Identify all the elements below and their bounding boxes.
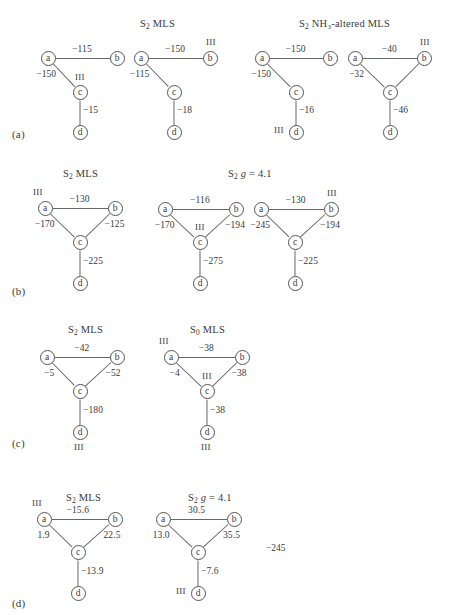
edge-cd bbox=[78, 560, 79, 586]
oxidation-mark-a: III bbox=[33, 187, 43, 197]
coupling-ab: −115 bbox=[72, 44, 92, 54]
node-a: a bbox=[255, 51, 270, 66]
edge-cd bbox=[296, 100, 297, 125]
node-b: b bbox=[235, 350, 250, 365]
node-a: a bbox=[40, 350, 55, 365]
coupling-bc: −52 bbox=[106, 368, 121, 378]
node-d: d bbox=[383, 125, 398, 140]
node-a: a bbox=[37, 512, 52, 527]
node-a: a bbox=[158, 202, 173, 217]
coupling-cd: −16 bbox=[299, 105, 314, 115]
node-c: c bbox=[383, 85, 398, 100]
coupling-ab: 30.5 bbox=[188, 505, 205, 515]
node-d: d bbox=[71, 586, 86, 601]
coupling-bc: −194 bbox=[225, 220, 245, 230]
edge-bc bbox=[395, 63, 419, 87]
node-b: b bbox=[110, 51, 125, 66]
node-d: d bbox=[193, 276, 208, 291]
node-d: d bbox=[167, 125, 182, 140]
coupling-bc: −38 bbox=[232, 368, 247, 378]
group-title: S2 g = 4.1 bbox=[188, 492, 232, 505]
node-d: d bbox=[73, 425, 88, 440]
edge-cd bbox=[80, 250, 81, 276]
extra-coupling-value: −245 bbox=[266, 543, 286, 553]
oxidation-mark-b: III bbox=[206, 37, 216, 47]
group-title: S2 MLS bbox=[66, 492, 101, 505]
coupling-cd: −225 bbox=[83, 256, 103, 266]
edge-cd bbox=[80, 100, 81, 125]
coupling-bc: 35.5 bbox=[223, 530, 240, 540]
node-b: b bbox=[229, 202, 244, 217]
coupling-ab: −38 bbox=[199, 343, 214, 353]
node-b: b bbox=[417, 51, 432, 66]
coupling-cd: −180 bbox=[83, 405, 103, 415]
oxidation-mark-c: III bbox=[202, 371, 212, 381]
edge-cd bbox=[200, 250, 201, 276]
oxidation-mark-b: III bbox=[420, 37, 430, 47]
oxidation-mark-d: III bbox=[176, 586, 186, 596]
coupling-cd: −46 bbox=[393, 105, 408, 115]
edge-ac bbox=[168, 524, 193, 547]
node-b: b bbox=[203, 51, 218, 66]
edge-ac bbox=[146, 64, 169, 88]
node-c: c bbox=[73, 235, 88, 250]
node-b: b bbox=[323, 51, 338, 66]
edge-cd bbox=[198, 560, 199, 586]
edge-ab bbox=[363, 58, 417, 59]
coupling-ab: −116 bbox=[190, 195, 210, 205]
panel-label-d: (d) bbox=[12, 597, 25, 609]
node-b: b bbox=[110, 350, 125, 365]
coupling-ac: −170 bbox=[155, 220, 175, 230]
node-a: a bbox=[254, 202, 269, 217]
node-c: c bbox=[193, 235, 208, 250]
node-a: a bbox=[156, 512, 171, 527]
edge-ab bbox=[171, 519, 227, 520]
node-b: b bbox=[108, 201, 123, 216]
group-title: S0 MLS bbox=[190, 324, 225, 337]
coupling-ab: −130 bbox=[286, 195, 306, 205]
node-a: a bbox=[348, 51, 363, 66]
edge-ab bbox=[52, 519, 108, 520]
coupling-cd: −225 bbox=[298, 256, 318, 266]
coupling-bc: −125 bbox=[105, 219, 125, 229]
edge-ab bbox=[55, 357, 110, 358]
node-c: c bbox=[73, 85, 88, 100]
edge-cd bbox=[295, 250, 296, 276]
coupling-bc: −194 bbox=[320, 220, 340, 230]
coupling-ac: 1.9 bbox=[37, 530, 49, 540]
coupling-ac: −5 bbox=[44, 368, 54, 378]
node-c: c bbox=[200, 384, 215, 399]
coupling-cd: −15 bbox=[83, 105, 98, 115]
edge-ab bbox=[149, 58, 203, 59]
node-c: c bbox=[167, 85, 182, 100]
coupling-ac: −4 bbox=[170, 368, 180, 378]
coupling-ac: −32 bbox=[349, 69, 364, 79]
node-d: d bbox=[73, 125, 88, 140]
node-c: c bbox=[288, 235, 303, 250]
edge-ab bbox=[56, 58, 110, 59]
edge-cd bbox=[207, 399, 208, 425]
spin-coupling-figure: (a)S2 MLSS2 NH₃-altered MLSabcd−115−150−… bbox=[0, 0, 453, 615]
oxidation-mark-a: III bbox=[32, 498, 42, 508]
edge-ab bbox=[269, 209, 324, 210]
coupling-ac: −150 bbox=[251, 69, 271, 79]
panel-label-c: (c) bbox=[12, 437, 25, 449]
coupling-ab: −42 bbox=[74, 343, 89, 353]
group-title: S2 MLS bbox=[63, 168, 98, 181]
node-d: d bbox=[289, 125, 304, 140]
edge-ab bbox=[53, 208, 108, 209]
node-b: b bbox=[324, 202, 339, 217]
group-title: S2 NH₃-altered MLS bbox=[299, 18, 390, 31]
coupling-cd: −7.6 bbox=[201, 566, 219, 576]
node-b: b bbox=[108, 512, 123, 527]
edge-ab bbox=[270, 58, 323, 59]
oxidation-mark-c: III bbox=[75, 72, 85, 82]
oxidation-mark-d-below: III bbox=[74, 442, 84, 452]
oxidation-mark-d: III bbox=[274, 125, 284, 135]
edge-ac bbox=[49, 524, 73, 547]
oxidation-mark-b: III bbox=[327, 188, 337, 198]
panel-label-a: (a) bbox=[12, 128, 25, 140]
coupling-ab: −15.6 bbox=[67, 505, 89, 515]
coupling-cd: −13.9 bbox=[81, 566, 103, 576]
node-a: a bbox=[38, 201, 53, 216]
